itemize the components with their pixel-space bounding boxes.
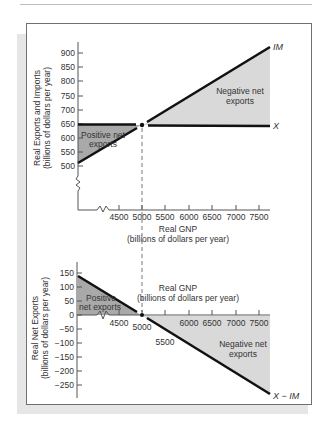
- bottom-positive-label-2: net exports: [79, 302, 121, 312]
- bottom-x-label-1: Real GNP: [159, 283, 198, 293]
- y-tick-900: 900: [61, 48, 75, 58]
- x-tick-5000: 5000: [133, 322, 152, 332]
- intersection-dot: [140, 123, 144, 127]
- top-x-label-1: Real GNP: [159, 224, 198, 234]
- im-label: IM: [273, 42, 284, 52]
- top-chart: 900 850 800 750 700 650 600 550 500 4500…: [32, 42, 284, 244]
- x-tick-7500: 7500: [250, 318, 269, 328]
- top-x-tick-labels: 4500 5000 5500 6000 6500 7000 7500: [110, 212, 269, 222]
- x-tick-6500: 6500: [203, 318, 222, 328]
- y-tick-500: 500: [61, 161, 75, 171]
- figure-svg: 900 850 800 750 700 650 600 550 500 4500…: [0, 0, 329, 441]
- y-tick-0: 0: [69, 310, 74, 320]
- x-label: X: [272, 121, 280, 131]
- y-tick-750: 750: [61, 91, 75, 101]
- top-y-tick-labels: 900 850 800 750 700 650 600 550 500: [61, 48, 75, 171]
- top-negative-label-1: Negative net: [216, 86, 264, 96]
- x-tick-7000: 7000: [227, 318, 246, 328]
- y-tick-minus-250: −250: [55, 380, 74, 390]
- y-tick-minus-200: −200: [55, 366, 74, 376]
- y-tick-100: 100: [60, 282, 74, 292]
- x-tick-5500: 5500: [156, 337, 175, 347]
- bottom-y-label-1: Real Net Exports: [30, 296, 40, 360]
- bottom-x-label-2: (billions of dollars per year): [137, 293, 239, 303]
- y-tick-minus-100: −100: [55, 338, 74, 348]
- bottom-y-label-2: (billions of dollars per year): [40, 277, 50, 379]
- bottom-y-tick-labels: 150 100 50 0 −50 −100 −150 −200 −250: [55, 268, 74, 390]
- x-tick-7000: 7000: [227, 212, 246, 222]
- x-tick-4500: 4500: [110, 318, 129, 328]
- x-tick-6500: 6500: [203, 212, 222, 222]
- top-negative-label-2: exports: [226, 96, 254, 106]
- zero-crossing-dot: [140, 313, 144, 317]
- y-tick-850: 850: [61, 62, 75, 72]
- top-y-label-1: Real Exports and Imports: [32, 70, 42, 166]
- y-tick-150: 150: [60, 268, 74, 278]
- y-tick-minus-150: −150: [55, 352, 74, 362]
- top-x-ticks: [119, 205, 259, 210]
- x-line-right: [148, 126, 270, 127]
- y-tick-800: 800: [61, 76, 75, 86]
- top-positive-label-2: exports: [89, 139, 117, 149]
- x-tick-6000: 6000: [180, 318, 199, 328]
- bottom-x-ticks: [119, 310, 259, 315]
- y-tick-minus-50: −50: [60, 324, 75, 334]
- y-tick-650: 650: [61, 119, 75, 129]
- bottom-chart: 150 100 50 0 −50 −100 −150 −200 −250 450…: [30, 262, 300, 401]
- x-tick-5500: 5500: [156, 212, 175, 222]
- y-tick-50: 50: [65, 296, 75, 306]
- bottom-negative-label-2: exports: [229, 349, 257, 359]
- y-tick-600: 600: [61, 133, 75, 143]
- y-tick-700: 700: [61, 105, 75, 115]
- y-tick-550: 550: [61, 147, 75, 157]
- x-tick-4500: 4500: [110, 212, 129, 222]
- x-tick-7500: 7500: [250, 212, 269, 222]
- bottom-negative-label-1: Negative net: [219, 339, 267, 349]
- top-y-label-2: (billions of dollars per year): [42, 67, 52, 169]
- x-minus-im-label: X − IM: [272, 391, 300, 401]
- x-tick-6000: 6000: [180, 212, 199, 222]
